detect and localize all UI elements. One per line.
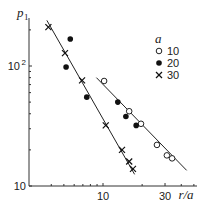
legend-marker-20: [156, 60, 162, 66]
legend-marker-30: [156, 72, 162, 78]
legend: a102030: [155, 31, 179, 81]
data-point-a10: [126, 108, 132, 114]
data-point-a20: [123, 114, 129, 120]
y-tick-label: 10: [14, 180, 26, 192]
data-point-a20: [115, 99, 121, 105]
legend-title: a: [155, 31, 162, 46]
y-axis-title-subscript: 1: [24, 12, 29, 22]
x-axis-title: r/a: [178, 187, 194, 202]
data-points: [45, 24, 175, 172]
y-tick-label-exponent: 2: [22, 58, 27, 67]
data-point-a10: [169, 156, 175, 162]
legend-label-30: 30: [167, 69, 179, 81]
data-point-a20: [67, 36, 73, 42]
legend-label-20: 20: [167, 57, 179, 69]
data-point-a10: [101, 78, 107, 84]
fit-lines: [47, 20, 187, 174]
y-axis-title: p: [16, 5, 24, 20]
x-tick-label: 10: [97, 190, 109, 202]
data-point-a10: [138, 121, 144, 127]
x-tick-label: 30: [159, 190, 171, 202]
chart: 103010102p1r/a a102030: [0, 0, 210, 213]
legend-label-10: 10: [167, 45, 179, 57]
data-point-a10: [154, 142, 160, 148]
data-point-a30: [62, 50, 68, 56]
legend-marker-10: [156, 48, 162, 54]
data-point-a20: [84, 94, 90, 100]
data-point-a20: [133, 123, 139, 129]
axes: 103010102p1r/a: [8, 5, 197, 202]
data-point-a20: [63, 64, 69, 70]
data-point-a10: [164, 153, 170, 159]
y-tick-label: 10: [8, 60, 20, 72]
